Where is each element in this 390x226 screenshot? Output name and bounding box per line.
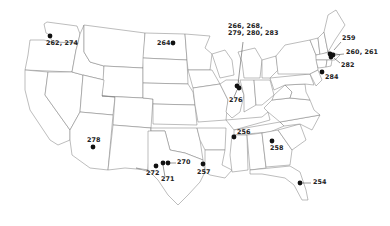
label-tx-272: 272 [146,170,160,178]
label-nh: 259 [342,35,356,43]
label-nj: 284 [325,74,339,82]
marker-ga[interactable] [270,139,275,144]
label-ga: 258 [270,145,284,153]
marker-az[interactable] [91,145,96,150]
marker-tx-271[interactable] [161,161,166,166]
marker-tx-257[interactable] [201,162,206,167]
label-il-bottom: 279, 280, 283 [228,30,279,38]
marker-tx-272[interactable] [154,164,159,169]
marker-tx-270[interactable] [166,161,171,166]
label-tx-270: 270 [177,159,191,167]
marker-ma-3[interactable] [329,55,334,60]
marker-wa[interactable] [48,34,53,39]
marker-fl[interactable] [298,181,303,186]
label-ri: 282 [341,62,355,70]
label-ma: 260, 261 [346,49,378,57]
label-wa: 262, 274 [46,40,78,48]
marker-nj[interactable] [320,70,325,75]
label-az: 278 [87,137,101,145]
label-tx-271: 271 [161,176,175,184]
label-tx-257: 257 [197,169,211,177]
marker-il-2[interactable] [237,86,242,91]
marker-nd[interactable] [171,41,176,46]
marker-tn[interactable] [232,135,237,140]
label-il-below: 276 [229,97,243,105]
label-fl: 254 [313,179,327,187]
label-tn: 256 [237,129,251,137]
us-map [0,0,390,226]
label-nd: 264 [157,40,171,48]
